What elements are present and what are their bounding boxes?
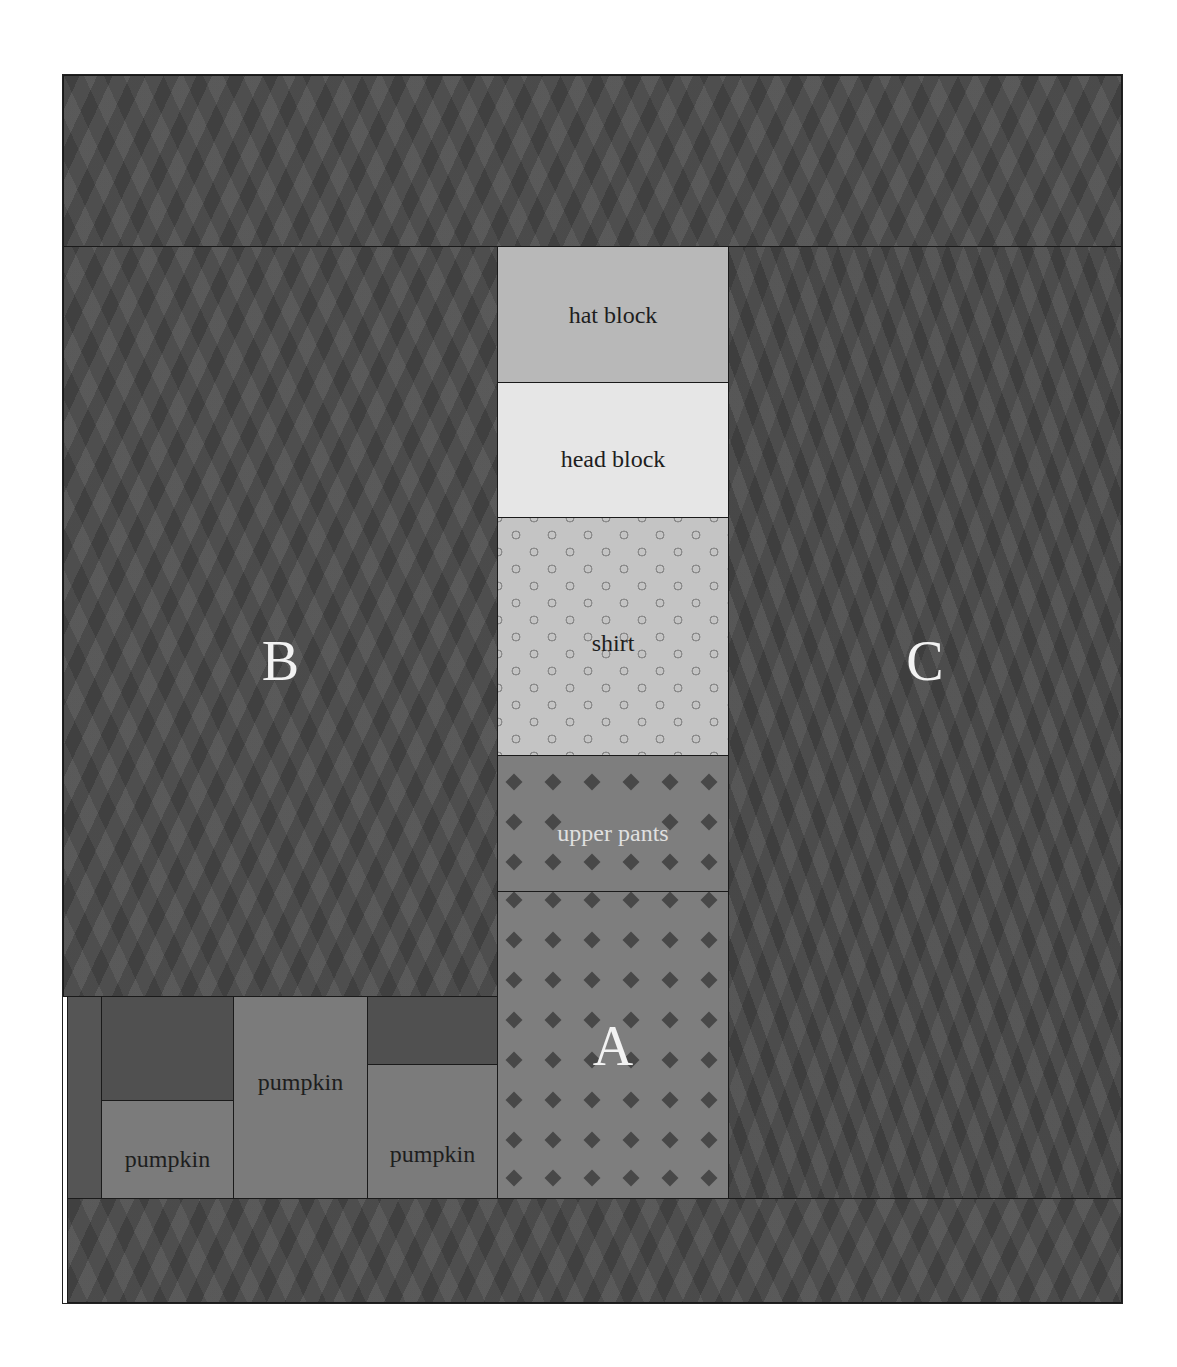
region-c: C	[728, 246, 1122, 1199]
pumpkin-1-label: pumpkin	[102, 1146, 233, 1173]
head-block: head block	[497, 382, 729, 518]
region-a-label: A	[498, 1014, 728, 1078]
bottom-border	[67, 1198, 1122, 1303]
shirt-block: shirt	[497, 517, 729, 756]
pumpkin-3-label: pumpkin	[368, 1141, 497, 1168]
pumpkin-2: pumpkin	[233, 996, 368, 1200]
top-border	[63, 75, 1122, 247]
pumpkin-3: pumpkin	[367, 1064, 498, 1200]
region-b-label: B	[64, 629, 497, 693]
hat-block-label: hat block	[498, 302, 728, 329]
shirt-label: shirt	[498, 630, 728, 657]
region-b: B	[63, 246, 498, 997]
region-c-label: C	[729, 629, 1121, 693]
pumpkin-2-label: pumpkin	[234, 1069, 367, 1096]
pumpkin-3-top	[367, 996, 498, 1065]
upper-pants-label: upper pants	[498, 820, 728, 847]
pumpkin-1: pumpkin	[101, 1100, 234, 1200]
head-block-label: head block	[498, 446, 728, 473]
pumpkin-strip-edge	[67, 996, 102, 1200]
region-a: A	[497, 891, 729, 1199]
hat-block: hat block	[497, 246, 729, 383]
pumpkin-1-top	[101, 996, 234, 1101]
upper-pants-block: upper pants	[497, 755, 729, 892]
quilt-diagram: B C hat block head block shirt	[62, 74, 1123, 1304]
